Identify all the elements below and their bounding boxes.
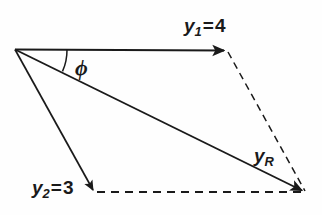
- label-yr-variable: y: [254, 145, 265, 166]
- label-y1-equals: =: [202, 15, 215, 36]
- vector-diagram-figure: y1=4 y2=3 yR ϕ: [0, 0, 322, 215]
- label-yr-subscript: R: [265, 154, 274, 169]
- label-y1: y1=4: [184, 16, 225, 39]
- label-y1-value: 4: [215, 15, 226, 36]
- label-y2: y2=3: [32, 178, 73, 201]
- vector-y1-line: [15, 50, 224, 51]
- label-y1-subscript: 1: [195, 24, 202, 39]
- label-y2-subscript: 2: [43, 186, 50, 201]
- label-yr: yR: [254, 146, 274, 169]
- label-y2-variable: y: [32, 177, 43, 198]
- label-y1-variable: y: [184, 15, 195, 36]
- label-phi-symbol: ϕ: [75, 57, 88, 79]
- label-y2-equals: =: [50, 177, 63, 198]
- label-y2-value: 3: [63, 177, 74, 198]
